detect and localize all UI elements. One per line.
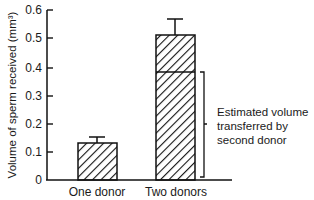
svg-text:transferred by: transferred by xyxy=(217,120,288,132)
y-tick-label: 0.5 xyxy=(25,31,42,45)
y-axis-label: Volume of sperm received (mm³) xyxy=(6,11,18,178)
x-tick-label-two-donors: Two donors xyxy=(145,185,207,199)
y-tick-label: 0.6 xyxy=(25,3,42,17)
annotation: Estimated volume transferred by second d… xyxy=(217,106,308,146)
y-tick-label: 0 xyxy=(35,173,42,187)
bar-two-donors xyxy=(156,19,195,180)
y-ticks: 0 0.1 0.2 0.3 0.4 0.5 0.6 xyxy=(25,3,53,187)
y-tick-label: 0.2 xyxy=(25,117,42,131)
x-tick-label-one-donor: One donor xyxy=(69,185,126,199)
bar-one-donor xyxy=(78,137,117,180)
svg-text:Estimated volume: Estimated volume xyxy=(217,106,308,118)
y-tick-label: 0.1 xyxy=(25,145,42,159)
y-tick-label: 0.3 xyxy=(25,89,42,103)
svg-text:second donor: second donor xyxy=(217,134,287,146)
bar-chart: Volume of sperm received (mm³) 0 0.1 0.2… xyxy=(0,0,314,200)
y-tick-label: 0.4 xyxy=(25,61,42,75)
annotation-bracket xyxy=(200,72,207,177)
